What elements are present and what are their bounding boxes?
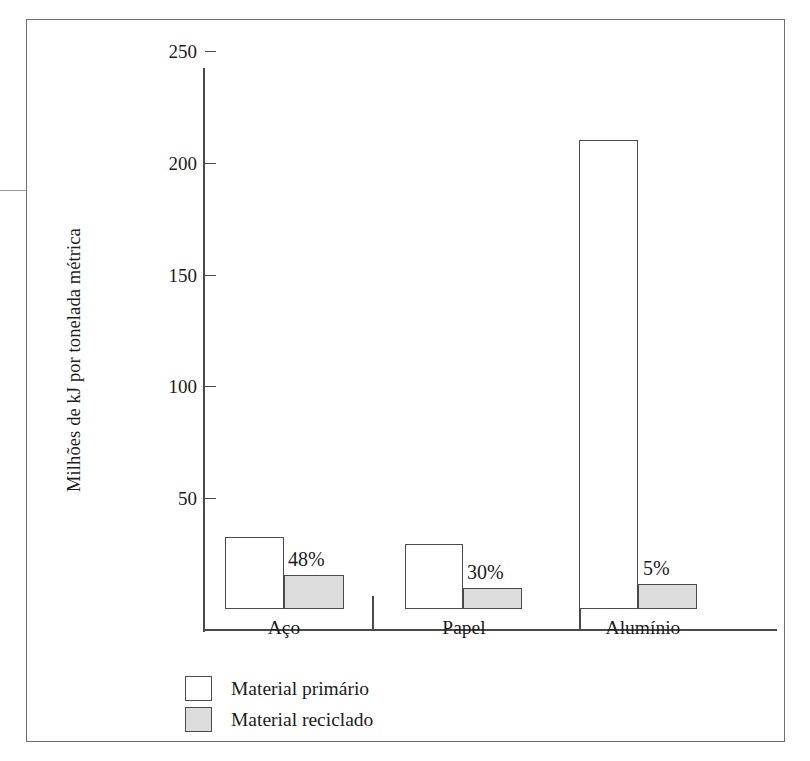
y-tick-150	[205, 275, 216, 276]
y-tick-50	[205, 498, 216, 499]
bar-primary-aluminio	[579, 140, 638, 609]
y-axis-line	[203, 68, 205, 632]
bar-primary-aco	[225, 537, 284, 609]
legend-item-recycled: Material reciclado	[185, 704, 373, 735]
y-tick-label-250: 250	[135, 42, 197, 61]
y-tick-label-200: 200	[135, 154, 197, 173]
bar-label-aco-percent: 48%	[288, 549, 325, 569]
y-tick-label-100: 100	[135, 377, 197, 396]
scan-artifact-line	[0, 190, 27, 191]
legend-label-primary: Material primário	[231, 678, 369, 700]
bar-recycled-papel	[463, 588, 522, 609]
y-tick-100	[205, 386, 216, 387]
chart-page: 250 200 150 100 50 Milhões de kJ por ton…	[0, 0, 810, 761]
legend-label-recycled: Material reciclado	[231, 709, 373, 731]
chart-legend: Material primário Material reciclado	[185, 673, 373, 735]
category-label-aco: Aço	[219, 617, 349, 639]
figure-frame: 250 200 150 100 50 Milhões de kJ por ton…	[26, 19, 785, 742]
y-tick-label-50: 50	[135, 489, 197, 508]
legend-swatch-white-square	[185, 676, 212, 701]
bar-primary-papel	[405, 544, 463, 609]
y-tick-label-150: 150	[135, 266, 197, 285]
category-label-papel: Papel	[399, 617, 529, 639]
y-tick-250	[205, 51, 216, 52]
y-tick-200	[205, 163, 216, 164]
bar-recycled-aluminio	[638, 584, 697, 609]
bar-label-papel-percent: 30%	[467, 562, 504, 582]
y-axis-title: Milhões de kJ por tonelada métrica	[64, 195, 84, 525]
group-separator-1	[372, 596, 374, 629]
bar-label-aluminio-percent: 5%	[643, 558, 670, 578]
legend-swatch-gray-square	[185, 707, 212, 732]
legend-item-primary: Material primário	[185, 673, 373, 704]
category-label-aluminio: Alumínio	[573, 617, 713, 639]
bar-recycled-aco	[284, 575, 344, 609]
